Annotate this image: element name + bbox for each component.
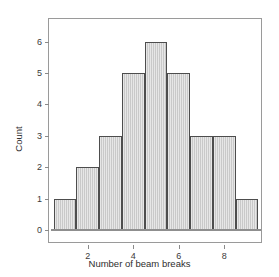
- y-tick-label: 2: [37, 163, 42, 172]
- histogram-bar: [145, 42, 168, 230]
- histogram-bar: [122, 73, 145, 230]
- y-tick-label: 4: [37, 100, 42, 109]
- y-tick-label: 0: [37, 226, 42, 235]
- y-tick-mark: [45, 73, 49, 74]
- histogram-bar: [76, 167, 99, 230]
- y-axis-title: Count: [13, 126, 24, 151]
- y-tick-label: 5: [37, 68, 42, 77]
- x-tick-mark: [179, 245, 180, 249]
- x-tick-mark: [133, 245, 134, 249]
- bars-layer: [49, 19, 263, 244]
- histogram-bar: [236, 199, 259, 230]
- histogram-bar: [167, 73, 190, 230]
- x-tick-mark: [224, 245, 225, 249]
- y-tick-label: 3: [37, 131, 42, 140]
- x-axis-baseline: [51, 229, 261, 231]
- plot-frame: 0123456 2468: [48, 18, 262, 243]
- y-tick-label: 1: [37, 194, 42, 203]
- x-axis-title: Number of beam breaks: [0, 258, 279, 269]
- x-tick-mark: [88, 245, 89, 249]
- histogram-chart: 0123456 2468 Count Number of beam breaks: [0, 0, 279, 277]
- y-tick-mark: [45, 167, 49, 168]
- y-tick-label: 6: [37, 37, 42, 46]
- y-tick-mark: [45, 104, 49, 105]
- histogram-bar: [190, 136, 213, 230]
- y-tick-mark: [45, 136, 49, 137]
- y-tick-mark: [45, 230, 49, 231]
- histogram-bar: [99, 136, 122, 230]
- y-tick-mark: [45, 42, 49, 43]
- y-tick-mark: [45, 199, 49, 200]
- histogram-bar: [213, 136, 236, 230]
- plot-area: 0123456 2468: [49, 19, 263, 244]
- histogram-bar: [54, 199, 77, 230]
